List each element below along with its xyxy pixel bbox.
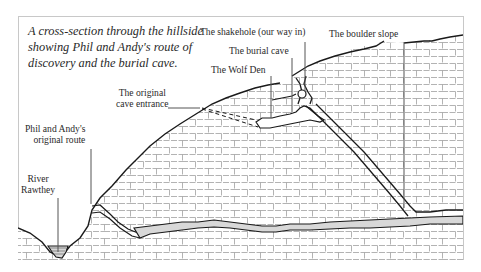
figure-caption: A cross-section through the hillside sho… bbox=[28, 23, 228, 71]
label-boulder-slope: The boulder slope bbox=[329, 28, 398, 39]
label-river-line-1: River bbox=[21, 173, 55, 184]
caption-line-1: A cross-section through the hillside bbox=[28, 23, 228, 39]
label-river: River Rawthey bbox=[21, 173, 55, 195]
label-original-route: Phil and Andy's original route bbox=[25, 123, 85, 145]
label-shakehole: The shakehole (our way in) bbox=[200, 26, 306, 37]
label-original-entrance-line-2: cave entrance bbox=[116, 98, 168, 109]
label-original-entrance: The original cave entrance bbox=[116, 87, 168, 109]
caption-line-2: showing Phil and Andy's route of bbox=[28, 39, 228, 55]
label-burial-cave: The burial cave bbox=[229, 45, 289, 56]
label-original-route-line-2: original route bbox=[25, 134, 85, 145]
label-wolf-den: The Wolf Den bbox=[211, 64, 265, 75]
caption-line-3: discovery and the burial cave. bbox=[28, 55, 228, 71]
label-river-line-2: Rawthey bbox=[21, 184, 55, 195]
label-original-route-line-1: Phil and Andy's bbox=[25, 123, 85, 134]
label-original-entrance-line-1: The original bbox=[116, 87, 168, 98]
